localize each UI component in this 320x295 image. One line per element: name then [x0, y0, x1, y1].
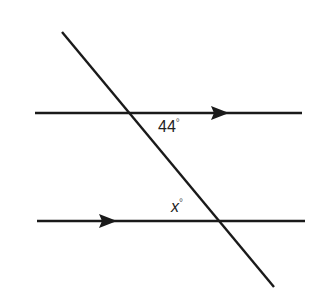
angle-label-x: x°	[171, 198, 183, 216]
geometry-figure	[0, 0, 320, 295]
degree-symbol: °	[179, 197, 183, 208]
angle-label-44: 44°	[158, 118, 180, 136]
diagram-canvas: 44° x°	[0, 0, 320, 295]
angle-value: 44	[158, 118, 176, 135]
transversal-line	[62, 32, 274, 287]
degree-symbol: °	[176, 117, 180, 128]
angle-variable: x	[171, 198, 179, 215]
